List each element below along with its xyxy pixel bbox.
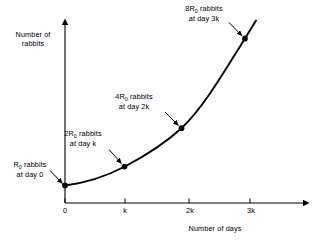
annotation-day-k-line2: at day k <box>70 139 96 148</box>
leader-line-day-k <box>109 150 122 164</box>
annotation-day-3k-line1: 8R0 rabbits <box>185 4 222 13</box>
leader-line-day-2k <box>165 112 179 126</box>
y-axis-title-line2: rabbits <box>22 39 45 48</box>
annotation-day-0-line1: R0 rabbits <box>13 160 46 169</box>
x-tick-label-3k: 3k <box>242 206 260 215</box>
data-point-day-k <box>122 164 128 170</box>
data-point-day-2k <box>179 125 185 131</box>
annotation-day-k-line1: 2R0 rabbits <box>64 129 101 138</box>
x-axis-title: Number of days <box>172 224 258 233</box>
exponential-growth-figure: Number of rabbits Number of days 0 k 2k … <box>0 0 329 243</box>
annotation-day-3k-line2: at day 3k <box>189 14 220 23</box>
annotation-day-0: R0 rabbits at day 0 <box>2 160 58 179</box>
leader-line-day-3k <box>229 23 242 36</box>
annotation-day-2k-line1: 4R0 rabbits <box>115 92 152 101</box>
annotation-day-2k: 4R0 rabbits at day 2k <box>104 92 164 111</box>
x-tick-label-k: k <box>117 206 133 215</box>
y-axis-title-line1: Number of <box>16 30 51 39</box>
annotation-day-0-line2: at day 0 <box>17 170 44 179</box>
data-point-day-3k <box>242 36 248 42</box>
annotation-day-2k-line2: at day 2k <box>119 102 150 111</box>
x-tick-label-0: 0 <box>57 206 73 215</box>
y-axis-title: Number of rabbits <box>4 30 62 48</box>
annotation-day-k: 2R0 rabbits at day k <box>54 129 112 148</box>
data-point-day-0 <box>62 183 68 189</box>
annotation-day-3k: 8R0 rabbits at day 3k <box>174 4 234 23</box>
x-tick-label-2k: 2k <box>181 206 199 215</box>
